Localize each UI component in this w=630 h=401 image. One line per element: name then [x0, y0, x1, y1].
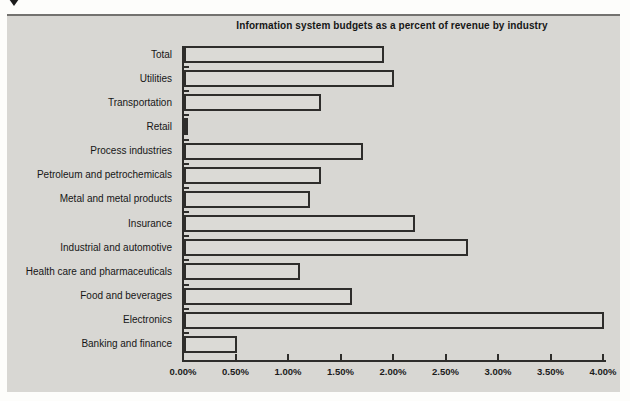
x-axis-tick — [340, 354, 342, 360]
category-label: Metal and metal products — [7, 193, 172, 204]
category-label: Electronics — [7, 314, 172, 325]
y-axis-tick — [182, 235, 189, 237]
x-axis-tick-label: 4.00% — [581, 366, 625, 377]
x-axis-tick — [287, 354, 289, 360]
x-axis-tick-label: 0.50% — [214, 366, 258, 377]
bar — [184, 46, 384, 63]
y-axis-tick — [182, 114, 189, 116]
y-axis-tick — [182, 90, 189, 92]
plot-area: 0.00%0.50%1.00%1.50%2.00%2.50%3.00%3.50%… — [182, 46, 602, 360]
category-label: Industrial and automotive — [7, 242, 172, 253]
x-axis-tick — [235, 354, 237, 360]
x-axis-tick-label: 3.00% — [476, 366, 520, 377]
x-axis-tick-label: 1.00% — [266, 366, 310, 377]
category-label: Transportation — [7, 97, 172, 108]
x-axis-tick — [182, 354, 184, 360]
y-axis-tick — [182, 66, 189, 68]
bar — [184, 70, 394, 87]
bar — [184, 167, 321, 184]
y-axis-tick — [182, 163, 189, 165]
category-label: Utilities — [7, 73, 172, 84]
category-label: Petroleum and petrochemicals — [7, 169, 172, 180]
chart-title: Information system budgets as a percent … — [182, 20, 602, 31]
category-label: Process industries — [7, 145, 172, 156]
category-label: Banking and finance — [7, 338, 172, 349]
y-axis-tick — [182, 139, 189, 141]
bar — [184, 191, 310, 208]
x-axis-tick-label: 1.50% — [319, 366, 363, 377]
bar — [184, 94, 321, 111]
x-axis-tick — [392, 354, 394, 360]
screenshot-stage: Information system budgets as a percent … — [0, 0, 630, 401]
bar — [184, 288, 352, 305]
x-axis-tick — [602, 354, 604, 360]
category-label: Health care and pharmaceuticals — [7, 266, 172, 277]
x-axis-tick — [445, 354, 447, 360]
bar — [184, 215, 415, 232]
x-axis-line — [182, 360, 606, 362]
bar — [184, 239, 468, 256]
category-label: Food and beverages — [7, 290, 172, 301]
bar — [184, 118, 188, 135]
x-axis-tick-label: 2.50% — [424, 366, 468, 377]
category-labels-column: TotalUtilitiesTransportationRetailProces… — [7, 16, 177, 394]
x-axis-tick-label: 3.50% — [529, 366, 573, 377]
bar — [184, 312, 604, 329]
category-label: Total — [7, 49, 172, 60]
y-axis-tick — [182, 308, 189, 310]
y-axis-tick — [182, 259, 189, 261]
x-axis-tick-label: 0.00% — [161, 366, 205, 377]
cursor-arrow-icon — [9, 0, 19, 6]
category-label: Insurance — [7, 218, 172, 229]
chart-panel: Information system budgets as a percent … — [7, 14, 620, 392]
bar — [184, 336, 237, 353]
x-axis-tick — [550, 354, 552, 360]
y-axis-tick — [182, 187, 189, 189]
bar — [184, 263, 300, 280]
bar — [184, 143, 363, 160]
x-axis-tick-label: 2.00% — [371, 366, 415, 377]
x-axis-tick — [497, 354, 499, 360]
y-axis-tick — [182, 211, 189, 213]
y-axis-tick — [182, 284, 189, 286]
category-label: Retail — [7, 121, 172, 132]
y-axis-tick — [182, 332, 189, 334]
